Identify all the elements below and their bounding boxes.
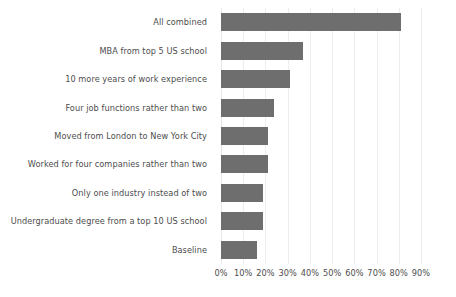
category-label-row: Four job functions rather than two: [0, 93, 214, 121]
category-label-row: Undergraduate degree from a top 10 US sc…: [0, 207, 214, 235]
bar[interactable]: [221, 184, 263, 202]
bar[interactable]: [221, 212, 263, 230]
bar-row: [221, 150, 421, 178]
plot-area: [221, 8, 421, 264]
category-label: Undergraduate degree from a top 10 US sc…: [11, 216, 214, 226]
category-label-row: All combined: [0, 8, 214, 36]
gridline-90pct: [421, 8, 422, 264]
category-label: MBA from top 5 US school: [99, 46, 214, 56]
category-label-row: Only one industry instead of two: [0, 179, 214, 207]
category-label-row: 10 more years of work experience: [0, 65, 214, 93]
category-label: All combined: [153, 17, 214, 27]
bar[interactable]: [221, 42, 303, 60]
category-axis-labels: All combinedMBA from top 5 US school10 m…: [0, 8, 214, 264]
bar[interactable]: [221, 155, 268, 173]
category-label: 10 more years of work experience: [65, 74, 214, 84]
bar-row: [221, 236, 421, 264]
x-tick-label: 40%: [301, 268, 319, 279]
bar-row: [221, 179, 421, 207]
x-tick-label: 10%: [234, 268, 252, 279]
x-tick-label: 30%: [278, 268, 296, 279]
x-tick-label: 0%: [214, 268, 227, 279]
category-label-row: Moved from London to New York City: [0, 122, 214, 150]
category-label-row: MBA from top 5 US school: [0, 36, 214, 64]
category-label-row: Baseline: [0, 236, 214, 264]
x-tick-label: 70%: [367, 268, 385, 279]
bar-chart: All combinedMBA from top 5 US school10 m…: [0, 0, 456, 297]
x-tick-label: 50%: [323, 268, 341, 279]
x-axis-labels: 0%10%20%30%40%50%60%70%80%90%: [221, 266, 421, 286]
category-label: Four job functions rather than two: [65, 103, 214, 113]
category-label: Baseline: [172, 245, 214, 255]
bar-row: [221, 65, 421, 93]
x-tick-label: 60%: [345, 268, 363, 279]
category-label: Only one industry instead of two: [72, 188, 214, 198]
bar[interactable]: [221, 13, 401, 31]
x-tick-label: 80%: [390, 268, 408, 279]
x-tick-label: 20%: [256, 268, 274, 279]
bar[interactable]: [221, 241, 257, 259]
bar[interactable]: [221, 70, 290, 88]
category-label: Moved from London to New York City: [54, 131, 214, 141]
bar-row: [221, 8, 421, 36]
bar-rows: [221, 8, 421, 264]
x-tick-label: 90%: [412, 268, 430, 279]
bar-row: [221, 122, 421, 150]
category-label-row: Worked for four companies rather than tw…: [0, 150, 214, 178]
category-label: Worked for four companies rather than tw…: [28, 159, 214, 169]
bar-row: [221, 93, 421, 121]
bar-row: [221, 207, 421, 235]
bar-row: [221, 36, 421, 64]
bar[interactable]: [221, 99, 274, 117]
bar[interactable]: [221, 127, 268, 145]
